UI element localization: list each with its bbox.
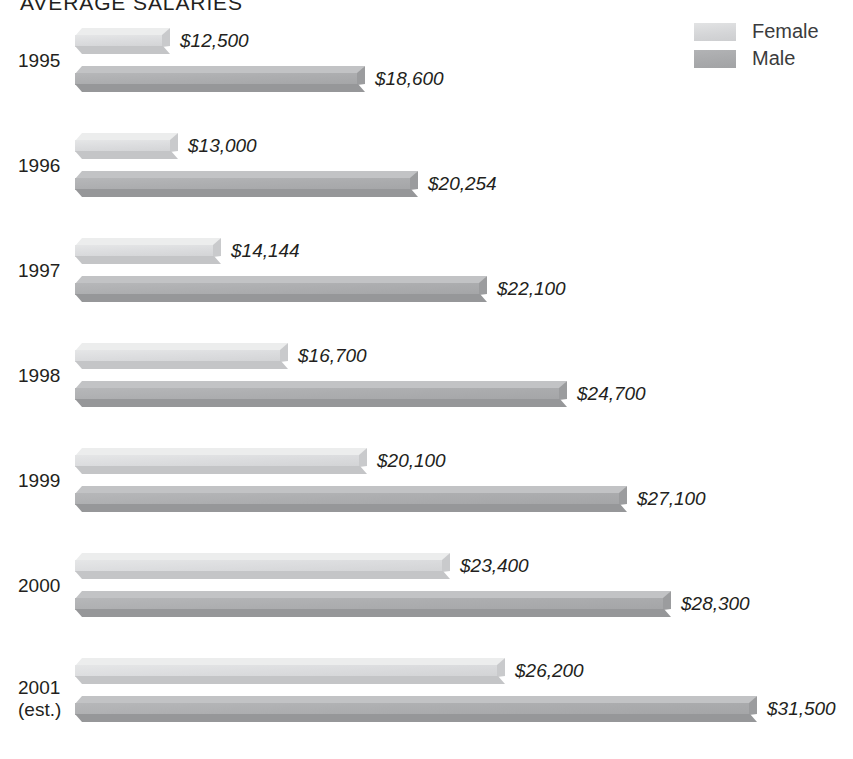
bar-female — [75, 448, 367, 474]
bar-male — [75, 591, 671, 617]
year-label-text: 1997 — [18, 260, 60, 281]
bar-female-bottom-face — [75, 151, 178, 159]
year-label-estimate: (est.) — [18, 699, 61, 721]
bar-male-bottom-face — [75, 84, 365, 92]
value-label-male: $22,100 — [497, 276, 566, 302]
year-label-text: 1996 — [18, 155, 60, 176]
bar-female — [75, 658, 505, 684]
year-label: 1998 — [18, 365, 60, 387]
bar-female — [75, 553, 450, 579]
value-label-female: $16,700 — [298, 343, 367, 369]
year-label: 1999 — [18, 470, 60, 492]
value-label-male: $31,500 — [767, 696, 836, 722]
year-group: 1999$20,100$27,100 — [0, 448, 853, 516]
bar-male-bottom-face — [75, 504, 627, 512]
value-label-female: $20,100 — [377, 448, 446, 474]
value-label-female: $13,000 — [188, 133, 257, 159]
value-label-female: $12,500 — [180, 28, 249, 54]
bar-male-face-face — [75, 283, 480, 295]
bar-female-bottom-face — [75, 676, 505, 684]
plot-area: 1995$12,500$18,6001996$13,000$20,2541997… — [0, 0, 853, 759]
year-group: 1998$16,700$24,700 — [0, 343, 853, 411]
bar-male — [75, 171, 418, 197]
bar-female-bottom-face — [75, 361, 288, 369]
bar-male-bottom-face — [75, 609, 671, 617]
bar-male-face-face — [75, 178, 411, 190]
bar-female-face-face — [75, 560, 443, 572]
bar-male-bottom-face — [75, 399, 567, 407]
value-label-male: $27,100 — [637, 486, 706, 512]
bar-male-face-face — [75, 703, 750, 715]
bar-female-face-face — [75, 35, 163, 47]
year-group: 1995$12,500$18,600 — [0, 28, 853, 96]
value-label-female: $14,144 — [231, 238, 300, 264]
year-label-text: 1998 — [18, 365, 60, 386]
value-label-male: $24,700 — [577, 381, 646, 407]
bar-male-bottom-face — [75, 714, 757, 722]
year-label-text: 1999 — [18, 470, 60, 491]
bar-female-face-face — [75, 245, 214, 257]
bar-female-bottom-face — [75, 256, 221, 264]
value-label-male: $18,600 — [375, 66, 444, 92]
year-label-text: 2000 — [18, 575, 60, 596]
bar-female-bottom-face — [75, 571, 450, 579]
value-label-female: $26,200 — [515, 658, 584, 684]
bar-male-bottom-face — [75, 189, 418, 197]
year-label-text: 1995 — [18, 50, 60, 71]
year-label: 1996 — [18, 155, 60, 177]
bar-male-face-face — [75, 598, 664, 610]
bar-male-face-face — [75, 388, 560, 400]
year-group: 2000$23,400$28,300 — [0, 553, 853, 621]
value-label-male: $20,254 — [428, 171, 497, 197]
bar-male — [75, 276, 487, 302]
bar-female-face-face — [75, 455, 360, 467]
bar-male-face-face — [75, 493, 620, 505]
bar-male — [75, 66, 365, 92]
value-label-female: $23,400 — [460, 553, 529, 579]
year-label: 2000 — [18, 575, 60, 597]
year-label: 2001(est.) — [18, 677, 61, 721]
year-group: 2001(est.)$26,200$31,500 — [0, 658, 853, 726]
year-group: 1996$13,000$20,254 — [0, 133, 853, 201]
bar-female-face-face — [75, 140, 171, 152]
bar-male-face-face — [75, 73, 358, 85]
year-label-text: 2001 — [18, 677, 60, 698]
chart-container: AVERAGE SALARIES Female Male 1995$12,500… — [0, 0, 853, 759]
bar-female-bottom-face — [75, 46, 170, 54]
value-label-male: $28,300 — [681, 591, 750, 617]
year-label: 1997 — [18, 260, 60, 282]
bar-male — [75, 696, 757, 722]
bar-male — [75, 486, 627, 512]
bar-female-face-face — [75, 350, 281, 362]
bar-female — [75, 238, 221, 264]
bar-female-bottom-face — [75, 466, 367, 474]
bar-female-face-face — [75, 665, 498, 677]
bar-female — [75, 133, 178, 159]
year-group: 1997$14,144$22,100 — [0, 238, 853, 306]
year-label: 1995 — [18, 50, 60, 72]
bar-male — [75, 381, 567, 407]
bar-female — [75, 343, 288, 369]
bar-female — [75, 28, 170, 54]
bar-male-bottom-face — [75, 294, 487, 302]
